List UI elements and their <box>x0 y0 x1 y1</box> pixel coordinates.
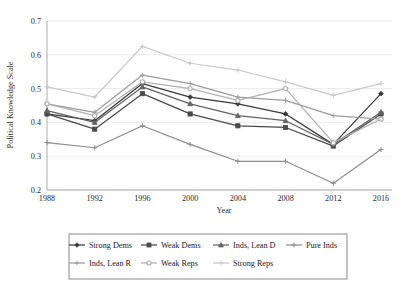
x-tick-label: 2008 <box>277 194 293 203</box>
series-line <box>47 46 381 97</box>
y-tick-label: 0.5 <box>31 85 41 94</box>
circle-marker <box>236 98 240 102</box>
chart-figure: 0.20.30.40.50.60.7 198819921996200020042… <box>0 0 411 286</box>
cross-marker <box>140 123 145 128</box>
square-marker <box>236 124 240 128</box>
circle-marker <box>331 141 335 145</box>
circle-marker <box>379 117 383 121</box>
circle-marker <box>93 114 97 118</box>
y-axis-title: Political Knowledge Scale <box>6 61 15 148</box>
data-series-layer <box>44 44 383 186</box>
legend-label: Inds, Lean D <box>233 241 276 250</box>
legend-label: Strong Dems <box>89 241 132 250</box>
asterisk-marker <box>188 81 193 86</box>
cross-marker <box>235 159 240 164</box>
legend-label: Inds, Lean R <box>89 259 132 268</box>
legend-label: Pure Inds <box>306 241 337 250</box>
circle-marker <box>283 87 287 91</box>
circle-marker <box>45 102 49 106</box>
series-line <box>47 126 381 183</box>
triangle-marker <box>45 108 50 113</box>
square-marker <box>140 92 144 96</box>
x-tick-label: 2012 <box>325 194 341 203</box>
x-tick-label: 2004 <box>230 194 246 203</box>
legend-label: Weak Dems <box>161 241 201 250</box>
circle-marker <box>140 80 144 84</box>
chart-legend: Strong DemsWeak DemsInds, Lean DPure Ind… <box>69 234 347 279</box>
y-tick-label: 0.6 <box>31 51 41 60</box>
diamond-marker <box>188 95 193 100</box>
cross-marker <box>44 140 49 145</box>
square-marker <box>283 125 287 129</box>
series-pure-inds <box>44 123 383 186</box>
gridlines <box>47 21 392 190</box>
circle-marker <box>147 261 151 265</box>
y-tick-label: 0.7 <box>31 17 41 26</box>
x-axis-ticks: 19881992199620002004200820122016 <box>39 194 389 203</box>
y-axis-ticks: 0.20.30.40.50.60.7 <box>31 17 41 195</box>
plus-marker <box>378 81 383 86</box>
cross-marker <box>92 145 97 150</box>
legend-label: Weak Reps <box>161 259 198 268</box>
x-axis-title: Year <box>216 206 231 215</box>
x-tick-label: 2000 <box>182 194 198 203</box>
cross-marker <box>188 142 193 147</box>
circle-marker <box>188 87 192 91</box>
legend-label: Strong Reps <box>233 259 273 268</box>
square-marker <box>93 127 97 131</box>
plus-marker <box>331 93 336 98</box>
square-marker <box>147 243 151 247</box>
plus-marker <box>235 67 240 72</box>
line-chart: 0.20.30.40.50.60.7 198819921996200020042… <box>0 0 411 286</box>
axis-lines <box>47 21 392 190</box>
plus-marker <box>188 61 193 66</box>
x-tick-label: 2016 <box>373 194 389 203</box>
cross-marker <box>283 159 288 164</box>
x-tick-label: 1988 <box>39 194 55 203</box>
square-marker <box>188 112 192 116</box>
x-tick-label: 1996 <box>134 194 150 203</box>
x-tick-label: 1992 <box>87 194 103 203</box>
y-tick-label: 0.3 <box>31 152 41 161</box>
y-tick-label: 0.4 <box>31 118 41 127</box>
series-strong-reps <box>44 44 383 100</box>
asterisk-marker <box>331 113 336 118</box>
asterisk-marker <box>283 98 288 103</box>
plus-marker <box>283 79 288 84</box>
